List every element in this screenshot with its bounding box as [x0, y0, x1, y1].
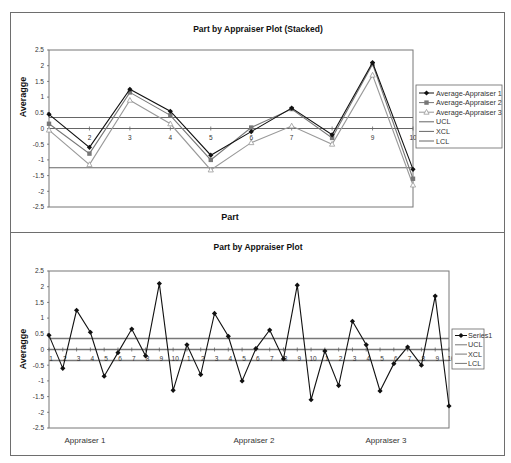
- triangle-marker: [127, 97, 132, 102]
- triangle-marker: [410, 182, 415, 187]
- y-tick-label: 0.5: [35, 109, 44, 116]
- plot-area: 2.521.510.50-0.5-1-1.5-2-2.5123456789101…: [33, 267, 455, 431]
- y-tick-label: -1.5: [33, 172, 45, 179]
- y-tick-label: -0.5: [33, 141, 45, 148]
- legend-entry: UCL: [468, 340, 482, 349]
- group-label: Appraiser 1: [65, 436, 106, 445]
- y-tick-label: -2: [38, 188, 44, 195]
- x-tick-label: 10: [172, 355, 180, 362]
- x-tick-label: 4: [169, 134, 173, 141]
- x-tick-label: 5: [209, 134, 213, 141]
- y-tick-label: 0.5: [35, 330, 44, 337]
- legend-entry: XCL: [468, 350, 482, 359]
- diamond-marker: [184, 342, 189, 347]
- square-marker: [47, 122, 51, 126]
- x-tick-label: 6: [256, 355, 260, 362]
- square-marker: [411, 177, 415, 181]
- diamond-marker: [171, 388, 176, 393]
- x-tick-label: 9: [160, 355, 164, 362]
- x-tick-label: 9: [297, 355, 301, 362]
- diamond-marker: [364, 342, 369, 347]
- series-line: [49, 63, 413, 170]
- diamond-marker: [102, 374, 107, 379]
- x-tick-label: 5: [380, 355, 384, 362]
- x-tick-label: 7: [290, 134, 294, 141]
- y-tick-label: 1.5: [35, 78, 44, 85]
- diamond-marker: [88, 330, 93, 335]
- chart-title: Part by Appraiser Plot: [214, 242, 303, 252]
- x-tick-label: 5: [242, 355, 246, 362]
- x-tick-label: 6: [118, 355, 122, 362]
- y-tick-label: 1: [40, 93, 44, 100]
- diamond-marker: [350, 319, 355, 324]
- square-marker: [424, 100, 428, 104]
- diamond-marker: [74, 308, 79, 313]
- appraiser-chart: Part by Appraiser Plot 2.521.510.50-0.5-…: [11, 233, 504, 455]
- legend-entry: Average-Appraiser 2: [436, 98, 502, 107]
- triangle-marker: [168, 121, 173, 126]
- x-tick-label: 4: [228, 355, 232, 362]
- x-tick-label: 7: [132, 355, 136, 362]
- diamond-marker: [446, 403, 451, 408]
- y-tick-label: -0.5: [33, 362, 45, 369]
- legend: Series1UCLXCLLCL: [452, 329, 492, 369]
- diamond-marker: [212, 311, 217, 316]
- x-tick-label: 1: [49, 355, 53, 362]
- series-line: [49, 284, 449, 406]
- x-tick-label: 4: [91, 355, 95, 362]
- plot-area: 2.521.510.50-0.5-1-1.5-2-2.52345678910: [33, 46, 417, 210]
- y-tick-label: 2.5: [35, 46, 44, 53]
- y-tick-label: 1.5: [35, 299, 44, 306]
- legend: Average-Appraiser 1Average-Appraiser 2Av…: [416, 85, 502, 148]
- square-marker: [209, 158, 213, 162]
- x-tick-label: 2: [88, 134, 92, 141]
- x-tick-label: 3: [353, 355, 357, 362]
- y-tick-label: 2: [40, 62, 44, 69]
- y-tick-label: -1: [38, 156, 44, 163]
- x-tick-label: 10: [309, 355, 317, 362]
- legend-entry: UCL: [436, 117, 450, 126]
- legend-entry: XCL: [436, 127, 450, 136]
- legend-entry: Series1: [468, 331, 492, 340]
- y-tick-label: 0: [40, 125, 44, 132]
- y-axis-label: Averagge: [18, 329, 28, 370]
- x-tick-label: 2: [339, 355, 343, 362]
- x-tick-label: 3: [215, 355, 219, 362]
- y-tick-label: 2: [40, 283, 44, 290]
- square-marker: [87, 151, 91, 155]
- diamond-marker: [129, 326, 134, 331]
- x-tick-label: 9: [435, 355, 439, 362]
- group-labels: Appraiser 1Appraiser 2Appraiser 3: [65, 436, 407, 445]
- diamond-marker: [240, 378, 245, 383]
- x-tick-label: 9: [371, 134, 375, 141]
- x-tick-label: 3: [128, 134, 132, 141]
- diamond-marker: [308, 397, 313, 402]
- legend-entry: Average-Appraiser 3: [436, 108, 502, 117]
- x-tick-label: 7: [408, 355, 412, 362]
- appraiser-chart-panel: Part by Appraiser Plot 2.521.510.50-0.5-…: [10, 232, 505, 456]
- legend-entry: LCL: [468, 359, 481, 368]
- triangle-marker: [289, 123, 294, 128]
- legend-entry: LCL: [436, 137, 449, 146]
- group-label: Appraiser 3: [366, 436, 407, 445]
- series-line: [49, 64, 413, 179]
- diamond-marker: [377, 388, 382, 393]
- y-tick-label: -1.5: [33, 393, 45, 400]
- x-tick-label: 7: [270, 355, 274, 362]
- series-line: [49, 75, 413, 185]
- legend-entry: Average-Appraiser 1: [436, 89, 502, 98]
- y-tick-label: -2.5: [33, 424, 45, 431]
- chart-title: Part by Appraiser Plot (Stacked): [193, 24, 323, 34]
- y-axis-label: Averagge: [18, 77, 28, 118]
- y-tick-label: 1: [40, 314, 44, 321]
- stacked-chart: Part by Appraiser Plot (Stacked) 2.521.5…: [11, 13, 504, 232]
- y-tick-label: 0: [40, 346, 44, 353]
- diamond-marker: [336, 383, 341, 388]
- y-tick-label: -2.5: [33, 203, 45, 210]
- x-tick-label: 1: [187, 355, 191, 362]
- x-axis-label: Part: [221, 212, 239, 222]
- y-tick-label: 2.5: [35, 267, 44, 274]
- diamond-marker: [295, 283, 300, 288]
- triangle-marker: [370, 72, 375, 77]
- y-tick-label: -1: [38, 377, 44, 384]
